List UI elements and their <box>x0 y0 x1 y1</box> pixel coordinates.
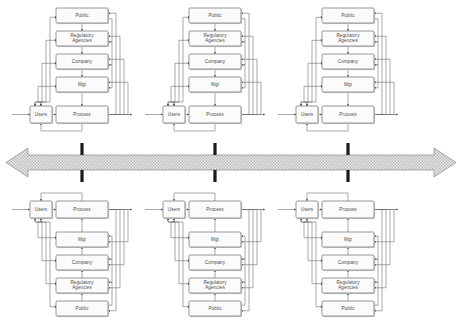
feedback-right-to-mgt <box>374 210 394 242</box>
cluster-top-center: PublicRegulatoryAgenciesCompanyMgtUsersP… <box>145 8 265 131</box>
node-users-bottom-center-label: Users <box>168 207 181 212</box>
feedback-right-to-mgt <box>108 210 128 242</box>
feedback-left-regulatory-to-users <box>174 40 189 106</box>
node-process-top-center-label: Process <box>206 112 224 117</box>
node-regulatory-top-center-label: Agencies <box>205 38 225 43</box>
node-mgt-bottom-right-label: Mgt <box>344 237 353 242</box>
feedback-right-to-regulatory <box>241 210 253 288</box>
feedback-left-mgt-to-users <box>304 218 322 238</box>
trunk-bottom-3 <box>346 170 349 182</box>
process-to-users-return <box>307 123 348 131</box>
node-public-bottom-right-label: Public <box>341 306 355 311</box>
feedback-left-regulatory-to-users <box>41 218 56 284</box>
diagram-svg: PublicRegulatoryAgenciesCompanyMgtUsersP… <box>0 0 462 324</box>
trunk-bottom-2 <box>213 170 216 182</box>
feedback-right-to-regulatory <box>108 36 120 114</box>
cluster-top-center-body: PublicRegulatoryAgenciesCompanyMgtUsersP… <box>145 8 265 131</box>
node-process-bottom-right-label: Process <box>339 207 357 212</box>
feedback-left-regulatory-to-users <box>307 218 322 284</box>
node-mgt-bottom-left-label: Mgt <box>78 237 87 242</box>
process-to-users-return <box>41 193 82 201</box>
node-public-top-left-label: Public <box>75 13 89 18</box>
node-mgt-top-center-label: Mgt <box>211 82 220 87</box>
cluster-bottom-center: PublicRegulatoryAgenciesCompanyMgtUsersP… <box>145 193 265 317</box>
node-process-bottom-center-label: Process <box>206 207 224 212</box>
node-mgt-top-left-label: Mgt <box>78 82 87 87</box>
feedback-left-mgt-to-users <box>38 86 56 106</box>
feedback-right-to-mgt <box>241 82 261 114</box>
node-public-top-center-label: Public <box>208 13 222 18</box>
node-users-bottom-right-label: Users <box>301 207 314 212</box>
trunk-bottom-1 <box>80 170 83 182</box>
bidirectional-bus-arrow <box>6 148 456 177</box>
node-regulatory-bottom-left-label: Agencies <box>72 285 92 290</box>
node-users-top-left-label: Users <box>35 112 48 117</box>
node-public-bottom-left-label: Public <box>75 306 89 311</box>
node-regulatory-top-left-label: Agencies <box>72 38 92 43</box>
cluster-bottom-right: PublicRegulatoryAgenciesCompanyMgtUsersP… <box>278 193 398 317</box>
feedback-left-mgt-to-users <box>171 218 189 238</box>
process-to-users-return <box>41 123 82 131</box>
cluster-top-right: PublicRegulatoryAgenciesCompanyMgtUsersP… <box>278 8 398 131</box>
node-mgt-top-right-label: Mgt <box>344 82 353 87</box>
node-mgt-bottom-center-label: Mgt <box>211 237 220 242</box>
cluster-bottom-left-body: PublicRegulatoryAgenciesCompanyMgtUsersP… <box>12 193 132 317</box>
node-users-bottom-left-label: Users <box>35 207 48 212</box>
feedback-left-regulatory-to-users <box>307 40 322 106</box>
feedback-right-to-regulatory <box>241 36 253 114</box>
process-to-users-return <box>174 193 215 201</box>
feedback-left-regulatory-to-users <box>41 40 56 106</box>
trunk-top-2 <box>213 143 216 155</box>
node-regulatory-bottom-right-label: Agencies <box>338 285 358 290</box>
node-company-bottom-left-label: Company <box>72 260 93 265</box>
node-company-bottom-center-label: Company <box>205 260 226 265</box>
diagram-canvas: PublicRegulatoryAgenciesCompanyMgtUsersP… <box>0 0 462 324</box>
feedback-left-mgt-to-users <box>304 86 322 106</box>
feedback-left-mgt-to-users <box>38 218 56 238</box>
feedback-left-regulatory-to-users <box>174 218 189 284</box>
feedback-right-to-regulatory <box>108 210 120 288</box>
node-company-top-center-label: Company <box>205 59 226 64</box>
feedback-left-mgt-to-users <box>171 86 189 106</box>
process-to-users-return <box>307 193 348 201</box>
node-company-top-left-label: Company <box>72 59 93 64</box>
central-arrow-bus <box>6 148 456 177</box>
node-users-top-right-label: Users <box>301 112 314 117</box>
node-public-top-right-label: Public <box>341 13 355 18</box>
process-to-users-return <box>174 123 215 131</box>
node-process-bottom-left-label: Process <box>73 207 91 212</box>
cluster-top-right-body: PublicRegulatoryAgenciesCompanyMgtUsersP… <box>278 8 398 131</box>
trunk-top-3 <box>346 143 349 155</box>
trunk-top-1 <box>80 143 83 155</box>
cluster-bottom-center-body: PublicRegulatoryAgenciesCompanyMgtUsersP… <box>145 193 265 317</box>
node-process-top-right-label: Process <box>339 112 357 117</box>
node-company-bottom-right-label: Company <box>338 260 359 265</box>
feedback-right-to-mgt <box>108 82 128 114</box>
node-users-top-center-label: Users <box>168 112 181 117</box>
node-company-top-right-label: Company <box>338 59 359 64</box>
feedback-right-to-regulatory <box>374 210 386 288</box>
node-public-bottom-center-label: Public <box>208 306 222 311</box>
feedback-right-to-mgt <box>241 210 261 242</box>
cluster-top-left: PublicRegulatoryAgenciesCompanyMgtUsersP… <box>12 8 132 131</box>
cluster-top-left-body: PublicRegulatoryAgenciesCompanyMgtUsersP… <box>12 8 132 131</box>
feedback-right-to-regulatory <box>374 36 386 114</box>
node-regulatory-bottom-center-label: Agencies <box>205 285 225 290</box>
feedback-right-to-mgt <box>374 82 394 114</box>
node-regulatory-top-right-label: Agencies <box>338 38 358 43</box>
cluster-bottom-left: PublicRegulatoryAgenciesCompanyMgtUsersP… <box>12 193 132 317</box>
node-process-top-left-label: Process <box>73 112 91 117</box>
cluster-bottom-right-body: PublicRegulatoryAgenciesCompanyMgtUsersP… <box>278 193 398 317</box>
